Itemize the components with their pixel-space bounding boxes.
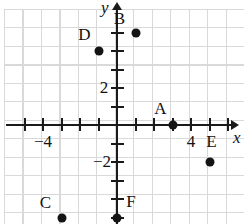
y-axis-tick <box>111 143 124 145</box>
y-axis-line <box>116 8 118 224</box>
y-axis-tick <box>111 198 124 200</box>
plotted-point-a <box>168 121 177 130</box>
point-label-a: A <box>154 99 166 119</box>
x-axis-tick <box>98 118 100 131</box>
y-axis-tick-label: −2 <box>93 152 111 172</box>
coordinate-plane-figure: −442−2 x y ABCDEF <box>0 0 247 224</box>
x-axis-tick <box>135 118 137 131</box>
plotted-point-d <box>94 47 103 56</box>
y-axis-tick <box>111 180 124 182</box>
plotted-point-f <box>113 213 122 222</box>
y-axis-tick <box>111 87 124 89</box>
point-label-e: E <box>206 132 216 152</box>
y-axis-tick-label: 2 <box>100 78 109 98</box>
point-label-b: B <box>114 9 125 29</box>
x-axis-tick <box>24 118 26 131</box>
point-label-f: F <box>126 192 135 212</box>
y-axis-tick <box>111 69 124 71</box>
y-axis-name-label: y <box>101 0 109 18</box>
x-axis-tick-label: −4 <box>34 132 52 152</box>
y-axis-tick <box>111 161 124 163</box>
y-axis-tick <box>111 32 124 34</box>
plotted-point-e <box>205 158 214 167</box>
x-axis-tick <box>61 118 63 131</box>
x-axis-tick <box>153 118 155 131</box>
point-label-d: D <box>78 25 90 45</box>
x-axis-tick <box>209 118 211 131</box>
x-axis-tick <box>42 118 44 131</box>
x-axis-name-label: x <box>233 128 241 148</box>
x-axis-line <box>6 124 233 126</box>
x-axis-tick-label: 4 <box>187 132 196 152</box>
x-axis-tick <box>227 118 229 131</box>
y-axis-tick <box>111 50 124 52</box>
x-axis-tick <box>190 118 192 131</box>
point-label-c: C <box>40 193 51 213</box>
plotted-point-c <box>57 213 66 222</box>
y-axis-tick <box>111 106 124 108</box>
x-axis-tick <box>79 118 81 131</box>
plotted-point-b <box>131 28 140 37</box>
